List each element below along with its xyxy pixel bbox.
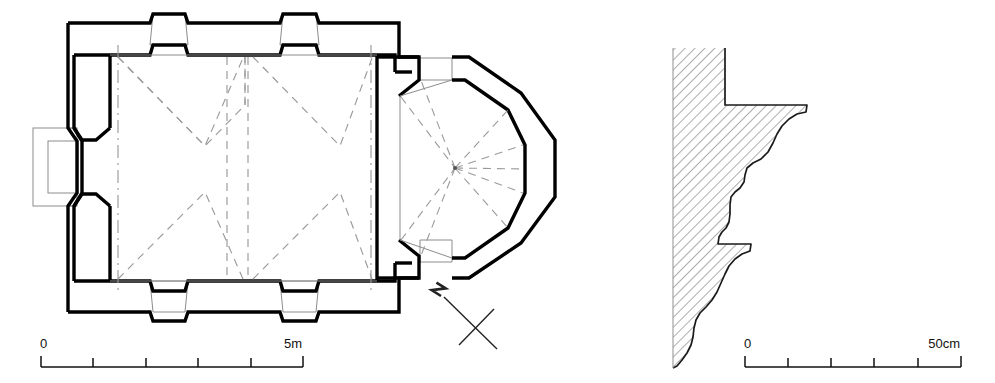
apse-rib-sse [455,168,508,228]
apse-rib-sw [401,168,455,240]
inner-wall-south [74,263,395,291]
apse-rib-nne [455,110,508,168]
north-arrow-cross [459,309,494,345]
buttress-bottom-2-outline [280,281,319,312]
apse-rib-nw [401,97,455,168]
drawing-canvas: 0 5m 0 50cm [0,0,995,383]
vault-bay2-north-v [253,57,372,146]
north-arrow-shaft [444,297,497,349]
apse-rib-e [455,168,525,169]
profile-hatch-fill [673,48,807,368]
vault-bay2-south-v [253,192,372,279]
buttress-top-2-outline [280,14,319,45]
apse-rib-nnw [420,78,455,168]
west-portal [33,128,78,206]
apse-rib-ssw [420,168,455,258]
north-arrow-group [432,283,497,349]
portal-inner-frame [48,141,78,193]
chancel-south-window-outline [420,240,452,262]
apse-rib-se [455,168,523,193]
vault-bay1-south-v [118,192,243,279]
drawing-sheet: 0 5m 0 50cm [0,0,995,383]
profile-scale-start-label: 0 [744,336,751,351]
inner-wall-north [74,45,395,72]
apse-outer-wall [452,57,555,278]
outer-wall-south [68,278,419,321]
plan-scale-bar-group: 0 5m [40,336,303,367]
outer-wall-north [68,14,419,57]
buttress-bottom-1-outline [150,281,188,312]
floor-plan-group [33,14,555,321]
profile-scale-end-label: 50cm [928,336,960,351]
portal-outer-frame [33,128,77,206]
north-letter-n [432,283,446,296]
plan-scale-end-label: 5m [284,336,302,351]
buttress-top-1-outline [150,14,188,45]
chancel-north-window-outline [420,58,452,80]
vault-bay1-north-v [118,57,243,146]
chancel-north-jamb [399,57,419,96]
nave-jamb-lower [82,194,110,206]
nave-jamb-upper [82,128,110,140]
nave-vault-ribs [118,45,372,292]
cornice-profile-group [673,48,807,368]
apse-vault-keystone [453,166,457,170]
vault-bay1-north-groin [118,57,245,146]
profile-scale-bar-group: 0 50cm [744,336,961,367]
chancel-inner-faces [400,80,452,258]
plan-scale-start-label: 0 [40,336,47,351]
